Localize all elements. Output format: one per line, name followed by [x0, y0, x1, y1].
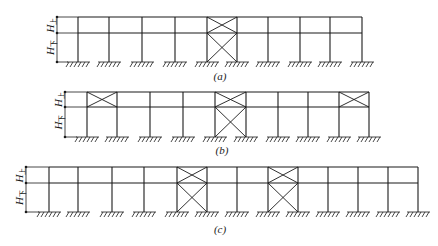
fixed-support-icon — [195, 212, 219, 217]
fixed-support-icon — [130, 62, 154, 67]
fixed-support-icon — [288, 62, 312, 67]
fixed-supports — [37, 212, 430, 217]
fixed-support-icon — [100, 212, 124, 217]
fixed-support-icon — [66, 62, 90, 67]
bracing — [87, 92, 369, 137]
fixed-supports — [66, 62, 374, 67]
upper-height-label: H上 — [13, 168, 27, 184]
upper-height-label: H上 — [52, 92, 66, 108]
fixed-support-icon — [256, 62, 280, 67]
fixed-supports — [75, 137, 381, 142]
portal-frame-bracing-diagram: H上H下(a) H上H下(b) H上H下(c) — [0, 0, 438, 246]
fixed-support-icon — [75, 137, 99, 142]
fixed-support-icon — [316, 212, 340, 217]
panel-a-frame: H上H下(a) — [44, 16, 374, 83]
fixed-support-icon — [97, 62, 121, 67]
fixed-support-icon — [327, 137, 351, 142]
lower-height-label: H下 — [52, 115, 66, 131]
fixed-support-icon — [346, 212, 370, 217]
fixed-support-icon — [376, 212, 400, 217]
fixed-support-icon — [286, 212, 310, 217]
fixed-support-icon — [350, 62, 374, 67]
fixed-support-icon — [357, 137, 381, 142]
fixed-support-icon — [163, 62, 187, 67]
panel-caption: (c) — [214, 223, 227, 236]
fixed-support-icon — [256, 212, 280, 217]
fixed-support-icon — [225, 62, 249, 67]
fixed-support-icon — [132, 212, 156, 217]
fixed-support-icon — [171, 137, 195, 142]
fixed-support-icon — [266, 137, 290, 142]
fixed-support-icon — [234, 137, 258, 142]
lower-height-label: H下 — [13, 190, 27, 206]
panel-c-frame: H上H下(c) — [13, 166, 430, 236]
panel-b-frame: H上H下(b) — [52, 91, 381, 157]
fixed-support-icon — [203, 137, 227, 142]
frame-members — [49, 167, 418, 212]
fixed-support-icon — [37, 212, 61, 217]
fixed-support-icon — [318, 62, 342, 67]
fixed-support-icon — [406, 212, 430, 217]
panel-caption: (b) — [216, 144, 229, 157]
fixed-support-icon — [66, 212, 90, 217]
height-dimension: H上H下 — [44, 16, 78, 64]
height-dimension: H上H下 — [13, 166, 49, 214]
height-dimension: H上H下 — [52, 91, 87, 139]
panel-caption: (a) — [214, 70, 227, 83]
bracing — [207, 17, 237, 62]
fixed-support-icon — [195, 62, 219, 67]
lower-height-label: H下 — [44, 40, 58, 56]
fixed-support-icon — [138, 137, 162, 142]
fixed-support-icon — [165, 212, 189, 217]
fixed-support-icon — [296, 137, 320, 142]
upper-height-label: H上 — [44, 18, 58, 34]
fixed-support-icon — [225, 212, 249, 217]
fixed-support-icon — [105, 137, 129, 142]
